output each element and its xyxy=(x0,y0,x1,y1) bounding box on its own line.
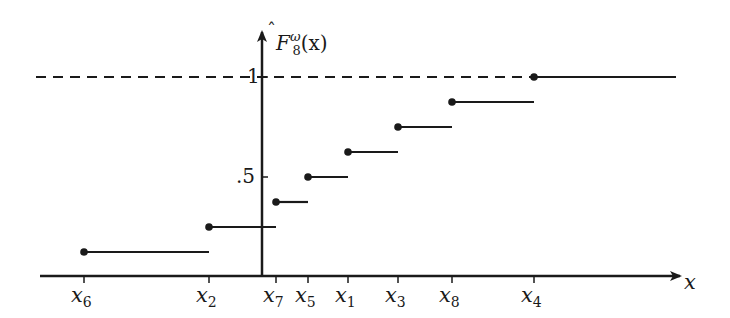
x-tick-label: x3 xyxy=(385,283,406,310)
y-tick-label: 1 xyxy=(247,64,260,88)
x-tick-label: x2 xyxy=(196,283,217,310)
x-tick-label: x7 xyxy=(263,283,284,310)
step-point xyxy=(272,198,280,206)
x-tick-label: x5 xyxy=(295,283,316,310)
x-tick-label: x4 xyxy=(521,283,542,310)
step-point xyxy=(530,73,538,81)
x-tick-label: x1 xyxy=(335,283,356,310)
ecdf-chart xyxy=(0,0,730,318)
step-segments xyxy=(80,73,676,256)
step-point xyxy=(344,148,352,156)
y-tick-label: .5 xyxy=(236,164,255,188)
step-point xyxy=(304,173,312,181)
step-point xyxy=(80,248,88,256)
x-tick-label: x6 xyxy=(71,283,92,310)
x-tick-label: x8 xyxy=(439,283,460,310)
axes xyxy=(40,32,680,276)
chart-title: ̂Fω8(x) xyxy=(276,29,328,58)
step-point xyxy=(448,98,456,106)
step-point xyxy=(205,223,213,231)
step-point xyxy=(394,123,402,131)
x-axis-label: x xyxy=(684,270,696,294)
